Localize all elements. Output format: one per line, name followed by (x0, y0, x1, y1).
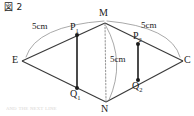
vertex-dots (75, 33, 140, 90)
vertex-label-P1: P1 (70, 22, 79, 34)
measurement-label-middle: 5cm (110, 55, 126, 64)
figure-caption: 図 2 (4, 2, 23, 13)
measurement-arcs (26, 21, 180, 100)
edge-M-N-dotted (105, 24, 106, 101)
scan-ghost-text: ᴀɴᴅ ᴛʜᴇ ɴᴇxᴛ ʟɪɴᴇ (6, 104, 188, 113)
vertex-label-E: E (12, 55, 18, 65)
vertex-label-M: M (99, 8, 108, 18)
vertex-label-Q2: Q2 (132, 81, 142, 93)
measurement-label-left: 5cm (32, 22, 48, 31)
vertex-label-Q1: Q1 (70, 89, 80, 101)
vertex-label-C: C (184, 55, 191, 65)
vertex-label-P2: P2 (133, 31, 142, 43)
measurement-label-right: 5cm (141, 21, 157, 30)
edge-N-E (22, 61, 106, 102)
edge-C-N (106, 61, 183, 102)
geometry-figure (0, 0, 194, 116)
